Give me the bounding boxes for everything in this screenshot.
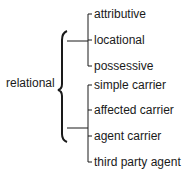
item-affected-carrier: affected carrier: [94, 103, 174, 117]
item-third-party-agent: third party agent: [94, 155, 181, 169]
item-locational: locational: [94, 33, 145, 47]
item-attributive: attributive: [94, 7, 146, 21]
root-label: relational: [6, 76, 55, 90]
item-simple-carrier: simple carrier: [94, 78, 166, 92]
curly-brace: [58, 31, 67, 142]
item-possessive: possessive: [94, 59, 153, 73]
item-agent-carrier: agent carrier: [94, 129, 161, 143]
